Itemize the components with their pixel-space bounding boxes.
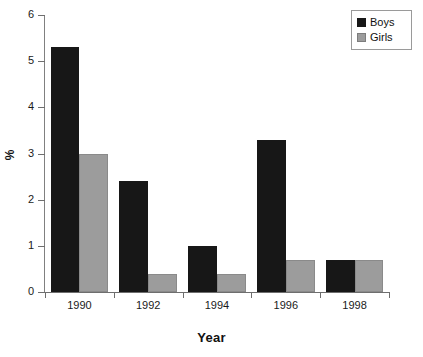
x-tick-4 — [320, 292, 321, 298]
bar-boys-1998 — [326, 260, 355, 292]
y-tick-0 — [38, 292, 45, 293]
legend-item-girls: Girls — [357, 30, 407, 45]
y-tick-3 — [38, 154, 45, 155]
y-tick-label-5: 5 — [0, 55, 34, 66]
x-tick-0 — [45, 292, 46, 298]
legend: Boys Girls — [351, 10, 412, 50]
bar-chart: 0123456 19901992199419961998 % Year Boys… — [0, 0, 423, 357]
x-tick-2 — [183, 292, 184, 298]
x-axis-title: Year — [0, 330, 423, 345]
legend-label-girls: Girls — [370, 32, 393, 43]
gray-square-swatch-icon — [357, 33, 366, 42]
bar-girls-1990 — [79, 154, 108, 293]
y-tick-label-4: 4 — [0, 101, 34, 112]
bar-girls-1992 — [148, 274, 177, 292]
bar-boys-1992 — [119, 181, 148, 292]
y-tick-label-2: 2 — [0, 194, 34, 205]
y-tick-label-0: 0 — [0, 286, 34, 297]
x-tick-5 — [389, 292, 390, 298]
y-tick-1 — [38, 246, 45, 247]
x-tick-3 — [251, 292, 252, 298]
bar-boys-1994 — [188, 246, 217, 292]
bar-girls-1996 — [286, 260, 315, 292]
bar-girls-1998 — [355, 260, 384, 292]
bar-boys-1990 — [51, 47, 80, 292]
y-tick-label-1: 1 — [0, 240, 34, 251]
bars-layer — [45, 15, 389, 292]
bar-boys-1996 — [257, 140, 286, 292]
y-tick-6 — [38, 15, 45, 16]
y-tick-4 — [38, 107, 45, 108]
x-tick-label-1998: 1998 — [315, 299, 395, 312]
x-axis-line — [44, 292, 389, 293]
x-tick-1 — [114, 292, 115, 298]
bar-girls-1994 — [217, 274, 246, 292]
y-tick-label-6: 6 — [0, 9, 34, 20]
legend-label-boys: Boys — [370, 17, 394, 28]
legend-item-boys: Boys — [357, 15, 407, 30]
y-axis-title: % — [3, 135, 17, 175]
y-tick-2 — [38, 200, 45, 201]
y-tick-5 — [38, 61, 45, 62]
black-square-swatch-icon — [357, 18, 366, 27]
